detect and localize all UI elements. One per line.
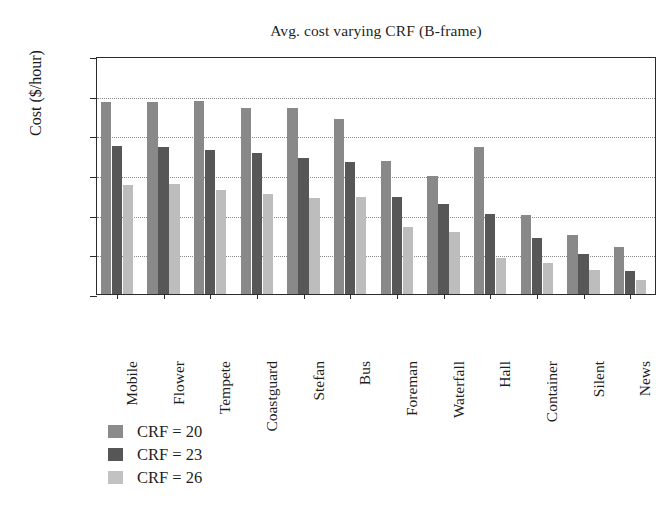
- bar-group: [194, 58, 227, 294]
- y-tick-mark: [90, 256, 97, 257]
- legend-item[interactable]: CRF = 20: [108, 420, 202, 443]
- x-tick-label: Silent: [590, 361, 608, 511]
- x-tick-label: Container: [543, 361, 561, 511]
- legend-swatch-icon: [108, 448, 123, 461]
- bar: [485, 214, 496, 294]
- bar: [334, 119, 345, 294]
- plot-area: 0.10.150.20.250.30.350.4MobileFlowerTemp…: [96, 57, 656, 295]
- x-tick-label: Waterfall: [450, 361, 468, 511]
- bar: [625, 271, 636, 294]
- y-tick-mark: [90, 98, 97, 99]
- bar-group: [427, 58, 460, 294]
- legend-swatch-icon: [108, 425, 123, 438]
- bar: [216, 190, 227, 294]
- bar: [578, 254, 589, 294]
- bar: [356, 197, 367, 294]
- bar: [496, 258, 507, 294]
- bar-group: [287, 58, 320, 294]
- bar: [205, 150, 216, 294]
- bar: [636, 280, 647, 294]
- y-axis-title: Cost ($/hour): [27, 0, 45, 203]
- legend-swatch-icon: [108, 471, 123, 484]
- bar-group: [614, 58, 647, 294]
- y-tick-mark: [90, 137, 97, 138]
- bar-group: [381, 58, 414, 294]
- y-tick-mark: [90, 58, 97, 59]
- bar: [474, 147, 485, 294]
- bar-group: [474, 58, 507, 294]
- bar: [158, 147, 169, 294]
- x-tick-mark: [584, 294, 585, 299]
- bar: [287, 108, 298, 294]
- x-tick-label: Bus: [356, 361, 374, 511]
- bar: [449, 232, 460, 294]
- bar: [543, 263, 554, 294]
- x-tick-mark: [537, 294, 538, 299]
- x-tick-label: Tempete: [216, 361, 234, 511]
- plot-inner: [97, 58, 655, 294]
- bar: [112, 146, 123, 294]
- bar: [345, 162, 356, 294]
- bar: [381, 161, 392, 294]
- bar: [309, 198, 320, 294]
- bar: [532, 238, 543, 294]
- x-tick-mark: [350, 294, 351, 299]
- x-tick-mark: [257, 294, 258, 299]
- bar: [392, 197, 403, 294]
- x-tick-mark: [630, 294, 631, 299]
- bar: [252, 153, 263, 294]
- bar-group: [521, 58, 554, 294]
- x-tick-label: Foreman: [403, 361, 421, 511]
- bar-group: [241, 58, 274, 294]
- bar: [403, 227, 414, 294]
- y-tick-mark: [90, 217, 97, 218]
- bar: [589, 270, 600, 294]
- bar: [521, 215, 532, 294]
- x-tick-label: Hall: [496, 361, 514, 511]
- bar: [123, 185, 134, 294]
- legend-label: CRF = 26: [137, 468, 202, 488]
- y-tick-mark: [90, 177, 97, 178]
- bar: [438, 204, 449, 294]
- x-tick-mark: [164, 294, 165, 299]
- bar: [169, 184, 180, 294]
- bar-group: [101, 58, 134, 294]
- bar: [427, 176, 438, 294]
- y-tick-mark: [90, 296, 97, 297]
- legend-label: CRF = 20: [137, 422, 202, 442]
- x-tick-label: Coastguard: [263, 361, 281, 511]
- chart-title: Avg. cost varying CRF (B-frame): [96, 22, 656, 40]
- bar: [263, 194, 274, 294]
- x-tick-mark: [444, 294, 445, 299]
- bar: [194, 101, 205, 294]
- bar: [101, 102, 112, 294]
- bar: [614, 247, 625, 294]
- chart-legend: CRF = 20CRF = 23CRF = 26: [108, 420, 202, 489]
- x-tick-label: Stefan: [310, 361, 328, 511]
- bar: [298, 158, 309, 294]
- bar: [147, 102, 158, 294]
- figure: Avg. cost varying CRF (B-frame) Cost ($/…: [0, 0, 672, 517]
- legend-label: CRF = 23: [137, 445, 202, 465]
- x-tick-mark: [397, 294, 398, 299]
- bar-group: [147, 58, 180, 294]
- x-tick-label: News: [636, 361, 654, 511]
- x-tick-mark: [117, 294, 118, 299]
- legend-item[interactable]: CRF = 26: [108, 466, 202, 489]
- x-tick-mark: [210, 294, 211, 299]
- x-tick-mark: [490, 294, 491, 299]
- legend-item[interactable]: CRF = 23: [108, 443, 202, 466]
- x-tick-mark: [304, 294, 305, 299]
- bar: [241, 108, 252, 294]
- bar-group: [567, 58, 600, 294]
- bar: [567, 235, 578, 294]
- bar-group: [334, 58, 367, 294]
